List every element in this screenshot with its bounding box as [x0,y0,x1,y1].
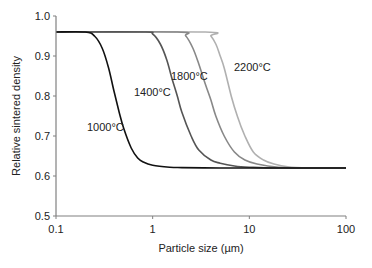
y-axis-label: Relative sintered density [10,56,22,176]
axes [56,16,346,216]
y-tick-label: 1.0 [35,10,50,22]
curve-labels: 1000°C1400°C1800°C2200°C [87,61,271,133]
y-tick-label: 0.9 [35,50,50,62]
x-tick-label: 0.1 [48,223,63,235]
curve-label: 1400°C [134,86,171,98]
series-line-1000 [56,32,346,168]
y-tick-label: 0.8 [35,90,50,102]
y-tick-label: 0.7 [35,130,50,142]
series-line-1400 [56,32,346,168]
curve-label: 2200°C [234,61,271,73]
curve-label: 1000°C [87,121,124,133]
x-ticks: 0.1110100 [48,216,355,235]
x-tick-label: 10 [243,223,255,235]
y-tick-label: 0.5 [35,210,50,222]
series-line-1800 [56,32,346,168]
x-axis-label: Particle size (µm) [158,242,243,254]
curve-label: 1800°C [171,70,208,82]
curves [56,32,346,168]
y-ticks: 0.50.60.70.80.91.0 [35,10,56,222]
chart: 0.50.60.70.80.91.0 0.1110100 1000°C1400°… [0,0,372,268]
x-tick-label: 1 [150,223,156,235]
x-tick-label: 100 [337,223,355,235]
series-line-2200 [56,32,346,168]
y-tick-label: 0.6 [35,170,50,182]
